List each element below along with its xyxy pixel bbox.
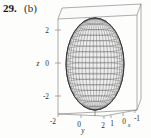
z-tick-label-0: 0: [45, 59, 49, 68]
z-tick-label-neg2: -2: [43, 92, 49, 101]
y-axis-label: y: [80, 126, 85, 135]
x-tick-label-1: 1: [110, 119, 114, 128]
x-tick-label-0: 0: [122, 117, 126, 126]
ellipsoid-surface-plot: 2 0 -2 z -2 0 2 y 1 0 -1 x: [0, 0, 151, 138]
z-axis-label: z: [36, 59, 40, 68]
y-tick-label-neg2: -2: [50, 117, 56, 126]
ellipsoid-mesh: [66, 18, 124, 110]
figure-panel: 29. (b): [0, 0, 151, 138]
x-tick-label-neg1: -1: [134, 114, 140, 123]
y-tick-label-2: 2: [101, 121, 105, 130]
x-axis-label: x: [127, 122, 131, 128]
z-tick-label-2: 2: [45, 26, 49, 35]
